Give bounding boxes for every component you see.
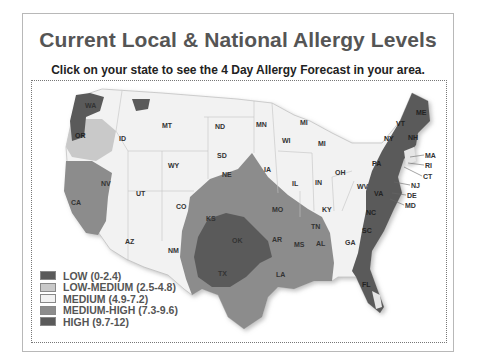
state-label-fl[interactable]: FL bbox=[362, 281, 371, 288]
state-label-nd[interactable]: ND bbox=[215, 123, 225, 130]
page-title: Current Local & National Allergy Levels bbox=[23, 28, 453, 52]
state-label-al[interactable]: AL bbox=[316, 240, 326, 247]
state-label-ma[interactable]: MA bbox=[425, 152, 436, 159]
map-legend: LOW (0-2.4) LOW-MEDIUM (2.5-4.8) MEDIUM … bbox=[40, 270, 178, 328]
state-label-wy[interactable]: WY bbox=[168, 162, 180, 169]
state-label-ut[interactable]: UT bbox=[136, 190, 146, 197]
legend-label: MEDIUM (4.9-7.2) bbox=[63, 293, 148, 305]
legend-swatch bbox=[40, 294, 56, 303]
legend-label: LOW-MEDIUM (2.5-4.8) bbox=[63, 281, 176, 293]
state-label-nm[interactable]: NM bbox=[168, 247, 179, 254]
state-label-sd[interactable]: SD bbox=[217, 152, 227, 159]
state-label-la[interactable]: LA bbox=[276, 271, 285, 278]
state-label-ia[interactable]: IA bbox=[264, 166, 271, 173]
legend-item-medium-high: MEDIUM-HIGH (7.3-9.6) bbox=[40, 305, 178, 317]
state-label-ny[interactable]: NY bbox=[384, 135, 394, 142]
state-label-co[interactable]: CO bbox=[176, 203, 187, 210]
legend-item-medium: MEDIUM (4.9-7.2) bbox=[40, 293, 178, 305]
state-label-mi-upper[interactable]: MI bbox=[300, 119, 308, 126]
state-label-mn[interactable]: MN bbox=[256, 121, 267, 128]
state-label-wi[interactable]: WI bbox=[282, 137, 291, 144]
state-label-ks[interactable]: KS bbox=[206, 215, 216, 222]
state-label-wv[interactable]: WV bbox=[357, 183, 369, 190]
legend-label: MEDIUM-HIGH (7.3-9.6) bbox=[63, 304, 178, 316]
state-label-md[interactable]: MD bbox=[405, 202, 416, 209]
legend-label: HIGH (9.7-12) bbox=[63, 316, 129, 328]
state-label-va[interactable]: VA bbox=[374, 190, 383, 197]
state-label-ne[interactable]: NE bbox=[222, 171, 232, 178]
state-label-vt[interactable]: VT bbox=[396, 120, 406, 127]
state-label-mt[interactable]: MT bbox=[162, 122, 173, 129]
legend-swatch bbox=[40, 283, 56, 292]
state-label-nj[interactable]: NJ bbox=[411, 182, 420, 189]
state-label-az[interactable]: AZ bbox=[125, 238, 135, 245]
legend-item-low-medium: LOW-MEDIUM (2.5-4.8) bbox=[40, 282, 178, 294]
state-label-wa[interactable]: WA bbox=[85, 102, 96, 109]
state-label-mi[interactable]: MI bbox=[318, 140, 326, 147]
state-label-oh[interactable]: OH bbox=[335, 169, 346, 176]
state-label-ga[interactable]: GA bbox=[345, 239, 356, 246]
state-label-id[interactable]: ID bbox=[119, 135, 126, 142]
legend-item-low: LOW (0-2.4) bbox=[40, 270, 178, 282]
legend-swatch bbox=[40, 317, 56, 326]
legend-swatch bbox=[40, 271, 56, 280]
state-label-il[interactable]: IL bbox=[292, 180, 299, 187]
legend-swatch bbox=[40, 306, 56, 315]
state-label-nh[interactable]: NH bbox=[408, 134, 418, 141]
state-label-tx[interactable]: TX bbox=[218, 270, 227, 277]
state-label-ar[interactable]: AR bbox=[272, 236, 282, 243]
state-label-mo[interactable]: MO bbox=[272, 206, 284, 213]
state-label-pa[interactable]: PA bbox=[372, 160, 381, 167]
state-label-ri[interactable]: RI bbox=[425, 162, 432, 169]
state-label-de[interactable]: DE bbox=[407, 192, 417, 199]
state-label-ca[interactable]: CA bbox=[71, 199, 81, 206]
legend-item-high: HIGH (9.7-12) bbox=[40, 316, 178, 328]
state-label-or[interactable]: OR bbox=[75, 132, 86, 139]
state-label-sc[interactable]: SC bbox=[362, 227, 372, 234]
page-subtitle: Click on your state to see the 4 Day All… bbox=[23, 63, 453, 77]
legend-label: LOW (0-2.4) bbox=[63, 270, 121, 282]
state-label-ms[interactable]: MS bbox=[294, 241, 305, 248]
state-label-nc[interactable]: NC bbox=[366, 209, 376, 216]
state-label-ok[interactable]: OK bbox=[232, 237, 243, 244]
state-label-tn[interactable]: TN bbox=[311, 223, 320, 230]
state-label-ct[interactable]: CT bbox=[423, 173, 433, 180]
state-label-in[interactable]: IN bbox=[315, 179, 322, 186]
state-label-nv[interactable]: NV bbox=[101, 180, 111, 187]
state-label-me[interactable]: ME bbox=[416, 109, 427, 116]
state-label-ky[interactable]: KY bbox=[322, 206, 332, 213]
